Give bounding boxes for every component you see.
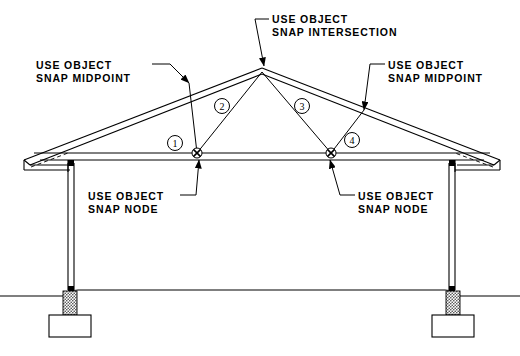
- annotation-line-2: SNAP MIDPOINT: [388, 72, 483, 85]
- eave-detail-right: [455, 160, 500, 172]
- leader-line-snap-node-right: [330, 160, 355, 195]
- truss-web-members: [189, 72, 364, 153]
- floor-slab: [0, 290, 520, 296]
- member-tag-label: 2: [220, 101, 225, 112]
- footing-right: [432, 315, 474, 337]
- member-tag-4: 4: [345, 133, 360, 148]
- eave-detail-left: [24, 160, 70, 172]
- annotation-snap-node-right: USE OBJECTSNAP NODE: [358, 190, 434, 216]
- truss-section-drawing: 1234: [0, 0, 520, 356]
- concrete-pier-right: [446, 291, 460, 315]
- annotation-line-1: USE OBJECT: [388, 59, 483, 72]
- annotation-line-2: SNAP NODE: [358, 203, 434, 216]
- snap-node-marker-icon: [192, 148, 202, 158]
- annotation-line-2: SNAP INTERSECTION: [272, 26, 397, 39]
- annotation-snap-node-left: USE OBJECTSNAP NODE: [88, 190, 164, 216]
- annotation-line-2: SNAP MIDPOINT: [36, 72, 131, 85]
- annotation-line-1: USE OBJECT: [88, 190, 164, 203]
- bottom-chord: [34, 153, 490, 160]
- annotation-snap-midpoint-right: USE OBJECTSNAP MIDPOINT: [388, 59, 483, 85]
- annotation-leader-lines: [152, 19, 385, 195]
- exterior-walls: [68, 160, 455, 291]
- member-tag-3: 3: [295, 99, 310, 114]
- member-tag-2: 2: [215, 99, 230, 114]
- annotation-line-2: SNAP NODE: [88, 203, 164, 216]
- member-tag-label: 1: [173, 138, 178, 149]
- annotation-snap-intersection-apex: USE OBJECTSNAP INTERSECTION: [272, 13, 397, 39]
- leader-line-snap-node-left: [180, 160, 199, 195]
- drawing-canvas: 1234 USE OBJECTSNAP MIDPOINTUSE OBJECTSN…: [0, 0, 520, 356]
- annotation-line-1: USE OBJECT: [36, 59, 131, 72]
- member-tag-label: 3: [300, 101, 305, 112]
- concrete-pier-left: [63, 291, 77, 315]
- leader-line-snap-midpoint-right: [364, 64, 385, 110]
- footing-left: [49, 315, 91, 337]
- annotation-line-1: USE OBJECT: [358, 190, 434, 203]
- leader-line-snap-intersection-apex: [255, 19, 269, 66]
- leader-line-snap-midpoint-left: [152, 64, 189, 83]
- annotation-line-1: USE OBJECT: [272, 13, 397, 26]
- annotation-snap-midpoint-left: USE OBJECTSNAP MIDPOINT: [36, 59, 131, 85]
- member-tag-label: 4: [350, 135, 355, 146]
- snap-node-marker-icon: [326, 148, 336, 158]
- member-tag-1: 1: [168, 136, 183, 151]
